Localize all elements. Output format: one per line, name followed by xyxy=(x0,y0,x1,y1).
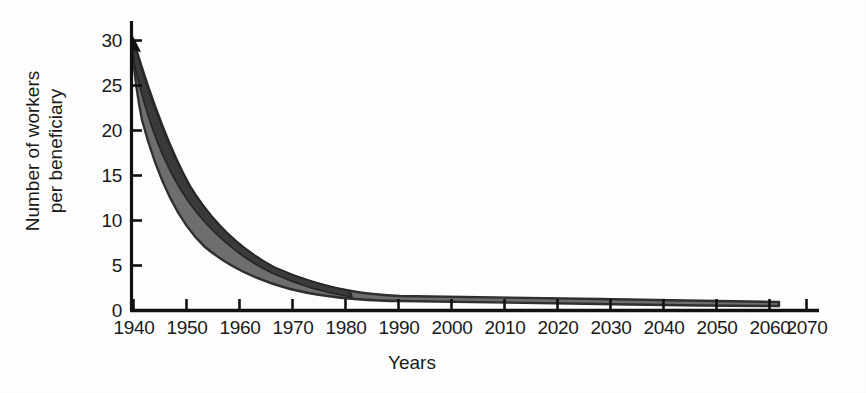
x-tick-label-1980: 1980 xyxy=(318,317,374,339)
y-tick-label-15: 15 xyxy=(82,165,122,187)
chart-figure: 0 5 10 15 20 25 30 1940 1950 1960 1970 1… xyxy=(0,0,866,393)
x-axis-title: Years xyxy=(388,352,436,374)
x-tick-label-1950: 1950 xyxy=(159,317,215,339)
y-tick-label-10: 10 xyxy=(82,210,122,232)
x-tick-label-2000: 2000 xyxy=(424,317,480,339)
y-tick-label-30: 30 xyxy=(82,30,122,52)
y-tick-label-5: 5 xyxy=(82,255,122,277)
x-tick-label-2070: 2070 xyxy=(779,317,835,339)
x-tick-label-2020: 2020 xyxy=(530,317,586,339)
y-tick-label-20: 20 xyxy=(82,120,122,142)
x-tick-label-2040: 2040 xyxy=(636,317,692,339)
x-tick-label-1990: 1990 xyxy=(371,317,427,339)
y-axis-title: Number of workers per beneficiary xyxy=(21,21,67,281)
y-axis-title-line1: Number of workers xyxy=(21,21,44,281)
x-tick-label-2010: 2010 xyxy=(477,317,533,339)
y-tick-label-25: 25 xyxy=(82,75,122,97)
x-tick-label-1960: 1960 xyxy=(212,317,268,339)
x-tick-label-2030: 2030 xyxy=(583,317,639,339)
x-tick-label-2050: 2050 xyxy=(689,317,745,339)
x-tick-label-1940: 1940 xyxy=(106,317,162,339)
y-axis-title-line2: per beneficiary xyxy=(44,21,67,281)
x-tick-label-1970: 1970 xyxy=(265,317,321,339)
